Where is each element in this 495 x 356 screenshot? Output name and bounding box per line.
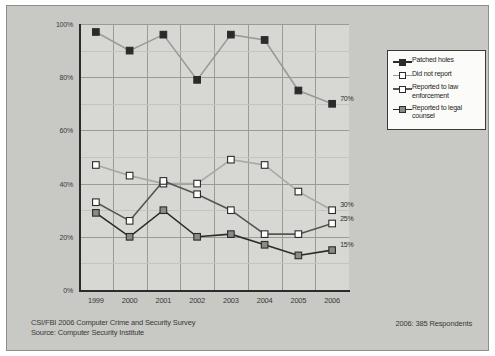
data-point-marker[interactable]	[194, 191, 201, 198]
data-point-marker[interactable]	[329, 101, 336, 108]
data-point-marker[interactable]	[329, 207, 336, 214]
x-axis-tick-label: 2001	[155, 296, 171, 305]
x-axis-tick-label: 2000	[122, 296, 138, 305]
open-square-marker-icon	[393, 71, 412, 80]
x-axis-tick-label: 1999	[88, 296, 104, 305]
y-axis-tick-label: 0%	[63, 287, 73, 294]
survey-source-line: Source: Computer Security Institute	[31, 328, 195, 338]
data-point-marker[interactable]	[228, 207, 235, 214]
x-axis-tick-label: 2005	[290, 296, 306, 305]
legend-item-label: Reported to legal counsel	[412, 104, 481, 121]
chart-figure: 0%20%40%60%80%100% 199920002001200220032…	[6, 5, 489, 351]
series-end-value-label: 30%	[340, 201, 353, 208]
plot-area	[79, 24, 349, 290]
data-point-marker[interactable]	[295, 87, 302, 94]
x-axis-tick-label: 2006	[324, 296, 340, 305]
data-point-marker[interactable]	[126, 234, 133, 241]
data-point-marker[interactable]	[126, 172, 133, 179]
data-point-marker[interactable]	[295, 231, 302, 238]
data-point-marker[interactable]	[93, 29, 100, 36]
data-point-marker[interactable]	[228, 156, 235, 163]
data-point-marker[interactable]	[194, 180, 201, 187]
chart-series-layer	[79, 24, 349, 290]
y-axis-tick-label: 40%	[60, 180, 73, 187]
open-square-marker-icon	[393, 84, 412, 93]
data-point-marker[interactable]	[261, 37, 268, 44]
data-point-marker[interactable]	[93, 199, 100, 206]
data-point-marker[interactable]	[160, 31, 167, 38]
data-point-marker[interactable]	[261, 241, 268, 248]
y-axis-tick-label: 80%	[60, 74, 73, 81]
data-point-marker[interactable]	[329, 220, 336, 227]
legend-item-reported-to-law-enforcement[interactable]: Reported to law enforcement	[393, 83, 481, 100]
data-point-marker[interactable]	[261, 231, 268, 238]
legend-item-label: Reported to law enforcement	[412, 83, 481, 100]
series-end-value-label: 70%	[340, 94, 353, 101]
respondents-note: 2006: 385 Respondents	[396, 319, 473, 328]
data-point-marker[interactable]	[160, 178, 167, 185]
legend-item-reported-to-legal-counsel[interactable]: Reported to legal counsel	[393, 104, 481, 121]
data-point-marker[interactable]	[126, 218, 133, 225]
x-axis-tick-label: 2002	[189, 296, 205, 305]
x-axis-tick-label: 2003	[223, 296, 239, 305]
x-axis-line	[79, 290, 350, 292]
data-point-marker[interactable]	[160, 207, 167, 214]
data-point-marker[interactable]	[295, 188, 302, 195]
legend-item-label: Did not report	[412, 70, 452, 79]
data-point-marker[interactable]	[126, 47, 133, 54]
y-axis-tick-label: 60%	[60, 127, 73, 134]
data-point-marker[interactable]	[295, 252, 302, 259]
source-caption: CSI/FBI 2006 Computer Crime and Security…	[31, 318, 195, 338]
data-point-marker[interactable]	[93, 162, 100, 169]
data-point-marker[interactable]	[194, 77, 201, 84]
data-point-marker[interactable]	[93, 210, 100, 217]
series-end-value-label: 25%	[340, 214, 353, 221]
y-axis-line	[79, 24, 81, 291]
data-point-marker[interactable]	[194, 234, 201, 241]
chart-legend: Patched holes Did not report Reported to…	[387, 50, 486, 130]
y-axis-tick-label: 20%	[60, 233, 73, 240]
series-end-value-label: 15%	[340, 241, 353, 248]
y-axis-tick-label: 100%	[56, 21, 73, 28]
data-point-marker[interactable]	[261, 162, 268, 169]
shaded-square-marker-icon	[393, 105, 412, 114]
legend-item-did-not-report[interactable]: Did not report	[393, 70, 481, 80]
data-point-marker[interactable]	[228, 231, 235, 238]
x-axis-tick-label: 2004	[257, 296, 273, 305]
filled-square-marker-icon	[393, 57, 412, 66]
legend-item-label: Patched holes	[412, 56, 454, 65]
data-point-marker[interactable]	[228, 31, 235, 38]
data-point-marker[interactable]	[329, 247, 336, 254]
survey-title-line: CSI/FBI 2006 Computer Crime and Security…	[31, 318, 195, 328]
legend-item-patched-holes[interactable]: Patched holes	[393, 56, 481, 66]
